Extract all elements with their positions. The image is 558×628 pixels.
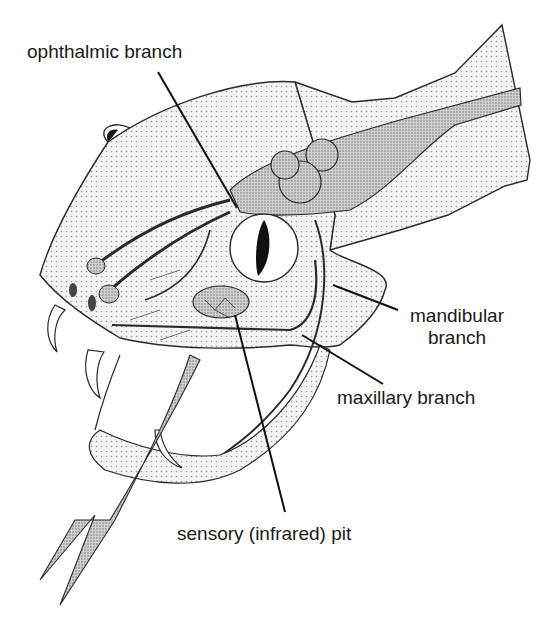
label-sensory-pit: sensory (infrared) pit — [177, 523, 351, 545]
nasal-bulb-2 — [99, 285, 119, 303]
ganglion-3 — [271, 151, 299, 179]
label-mandibular-branch-line2: branch — [402, 327, 512, 349]
snake-head-diagram: ophthalmic branch mandibular branch maxi… — [0, 0, 558, 628]
fang-2 — [86, 350, 104, 398]
nostril-2 — [88, 295, 96, 311]
lower-jaw — [89, 345, 330, 483]
fang-1 — [48, 305, 65, 352]
nasal-bulb-1 — [87, 258, 105, 274]
nostril-1 — [69, 283, 77, 297]
label-mandibular-branch-line1: mandibular — [402, 305, 512, 327]
label-ophthalmic-branch: ophthalmic branch — [27, 41, 182, 63]
label-maxillary-branch: maxillary branch — [337, 387, 475, 409]
